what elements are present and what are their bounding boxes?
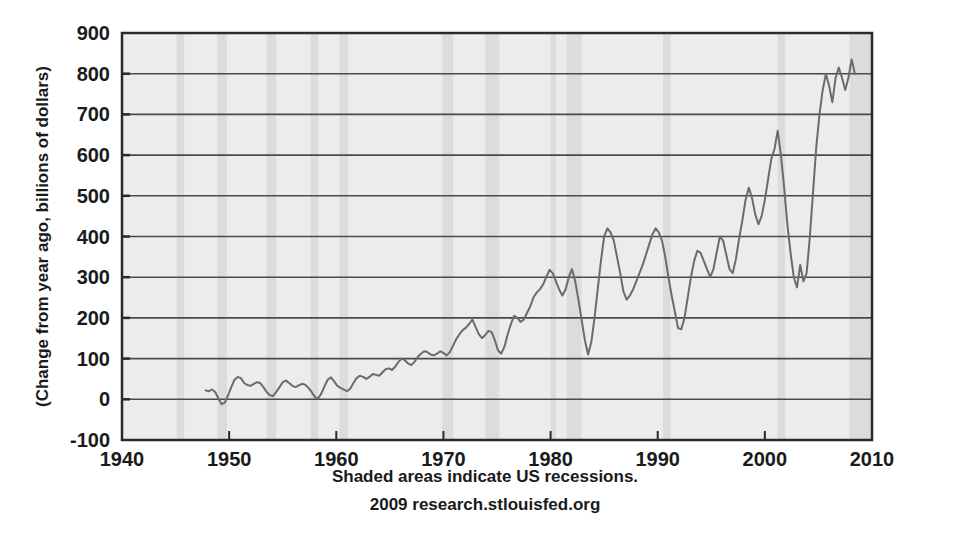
y-axis-title-text: (Change from year ago, billions of dolla… [33,66,52,407]
chart-figure: 19401950196019701980199020002010 -100010… [0,0,962,537]
chart-canvas: 19401950196019701980199020002010 -100010… [0,0,962,537]
x-tick-label: 1990 [635,448,680,470]
y-axis-title: (Change from year ago, billions of dolla… [33,66,52,407]
y-tick-label: 900 [77,22,110,44]
y-tick-label: -100 [70,429,110,451]
y-tick-label: 700 [77,103,110,125]
y-tick-label: 100 [77,348,110,370]
x-tick-label: 1940 [100,448,145,470]
y-tick-label: 800 [77,63,110,85]
y-tick-label: 0 [99,388,110,410]
footer-recession-note: Shaded areas indicate US recessions. [332,467,638,486]
y-tick-label: 300 [77,266,110,288]
y-tick-label: 400 [77,226,110,248]
x-tick-label: 2000 [743,448,788,470]
x-tick-label: 1950 [207,448,252,470]
x-tick-label: 2010 [850,448,895,470]
footer-source-note: 2009 research.stlouisfed.org [370,495,601,514]
y-tick-label: 200 [77,307,110,329]
y-tick-label: 600 [77,144,110,166]
y-tick-label: 500 [77,185,110,207]
